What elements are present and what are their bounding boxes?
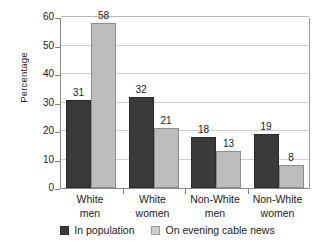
bar-value-label: 13 [214, 138, 244, 149]
bar [191, 137, 216, 188]
bar-group: 1813 [191, 17, 241, 188]
y-axis-tick-label: 40 [20, 68, 54, 79]
bar-value-label: 32 [126, 84, 156, 95]
x-axis-tick-mark [248, 189, 249, 194]
bar-value-label: 19 [251, 121, 281, 132]
y-axis-tick-label: 10 [20, 154, 54, 165]
y-axis-tick-label: 0 [20, 182, 54, 193]
bar-value-label: 58 [89, 10, 119, 21]
y-axis-tick-mark [55, 189, 60, 190]
bar-value-label: 18 [189, 124, 219, 135]
dark-square-icon [60, 226, 69, 235]
chart-legend: In populationOn evening cable news [0, 224, 335, 236]
y-axis-tick-label: 60 [20, 11, 54, 22]
bar [254, 134, 279, 188]
legend-item-label: On evening cable news [165, 224, 274, 236]
bar-group: 3221 [129, 17, 179, 188]
legend-item[interactable]: In population [60, 224, 134, 236]
x-axis-category-label-line: Non-White [236, 193, 320, 207]
bar-value-label: 8 [276, 152, 306, 163]
bar-group: 198 [254, 17, 304, 188]
y-axis-tick-label: 30 [20, 97, 54, 108]
bar-chart: Percentage 0102030405060 315832211813198… [0, 0, 335, 247]
bar [154, 128, 179, 188]
bar [279, 165, 304, 188]
plot-area: 315832211813198 [60, 18, 310, 189]
y-axis-tick-label: 50 [20, 40, 54, 51]
legend-item[interactable]: On evening cable news [151, 224, 274, 236]
y-axis-tick-label: 20 [20, 125, 54, 136]
x-axis-tick-mark [123, 189, 124, 194]
bar-value-label: 21 [151, 115, 181, 126]
legend-item-label: In population [74, 224, 134, 236]
bar [129, 97, 154, 188]
bar [216, 151, 241, 188]
bar [91, 23, 116, 188]
bar-group: 3158 [66, 17, 116, 188]
x-axis-category-label: Non-Whitewomen [236, 193, 320, 220]
bar-value-label: 31 [64, 87, 94, 98]
bar [66, 100, 91, 188]
x-axis-tick-mark [185, 189, 186, 194]
x-axis-category-label-line: women [236, 207, 320, 221]
light-square-icon [151, 226, 160, 235]
